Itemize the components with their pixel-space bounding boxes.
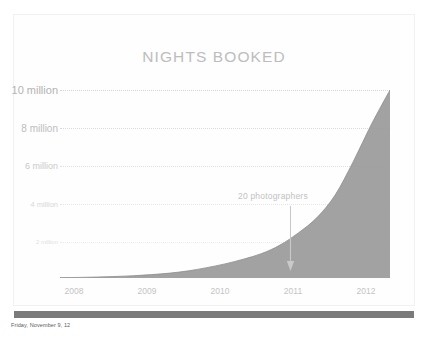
y-axis-tick-label-6m: 6 million: [0, 161, 58, 171]
footer-date: Friday, November 9, 12: [11, 322, 70, 328]
y-axis-tick-label-8m: 8 million: [0, 123, 58, 134]
x-axis-tick-label-2011: 2011: [284, 286, 302, 296]
x-axis-tick-label-2009: 2009: [138, 286, 157, 296]
y-axis-tick-label-2m: 2 million: [0, 239, 58, 245]
y-axis-tick-label-10m: 10 million: [0, 84, 58, 96]
x-axis-tick-label-2008: 2008: [65, 286, 84, 296]
x-axis-tick-label-2012: 2012: [357, 286, 376, 296]
annotation-label-photographers: 20 photographers: [238, 191, 308, 201]
chart-plot-area: [60, 90, 390, 278]
slide-bottom-bar: [14, 311, 414, 318]
x-axis-tick-label-2010: 2010: [211, 286, 230, 296]
area-series-nights-booked: [60, 90, 390, 278]
slide-viewport: NIGHTS BOOKED 10 million 8 million 6 mil…: [0, 0, 428, 339]
page-title: NIGHTS BOOKED: [0, 48, 428, 66]
arrow-down-icon: [285, 206, 296, 272]
y-axis-tick-label-4m: 4 million: [0, 200, 58, 209]
